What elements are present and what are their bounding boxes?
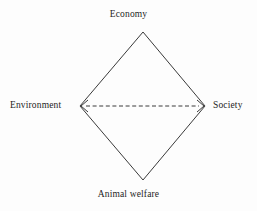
arrowhead-right-icon (197, 100, 204, 112)
node-label-animal-welfare: Animal welfare (0, 189, 257, 200)
node-label-environment: Environment (10, 100, 61, 111)
diagram-canvas: Economy Environment Society Animal welfa… (0, 0, 257, 211)
node-label-society: Society (213, 100, 243, 111)
node-label-economy: Economy (0, 9, 257, 20)
